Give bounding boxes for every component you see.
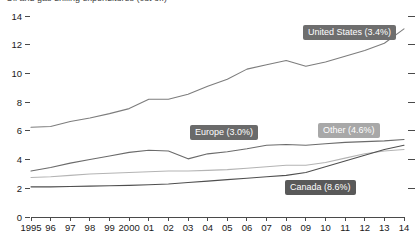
x-tick-label: 11 <box>340 222 350 233</box>
series-label-other: Other (4.6%) <box>318 123 380 138</box>
y-tick-label: 8 <box>17 97 22 108</box>
y-tick-label: 0 <box>17 212 22 223</box>
x-tick-label: 03 <box>183 222 194 233</box>
series-label-europe: Europe (3.0%) <box>190 125 258 140</box>
x-tick-label: 99 <box>104 222 115 233</box>
x-tick-label: 07 <box>261 222 272 233</box>
x-axis-ticks: 1995969798992000010203040506070809101112… <box>20 217 409 233</box>
y-axis-ticks: 02468101214 <box>11 11 30 223</box>
y-tick-label: 14 <box>11 11 22 22</box>
x-tick-label: 1995 <box>20 222 41 233</box>
x-tick-label: 98 <box>85 222 96 233</box>
x-tick-label: 13 <box>379 222 390 233</box>
right-axis-ticks <box>408 16 415 188</box>
series-line-other <box>31 150 404 178</box>
x-tick-label: 97 <box>65 222 76 233</box>
y-tick-label: 10 <box>11 68 22 79</box>
x-tick-label: 14 <box>399 222 410 233</box>
series-line-united-states <box>31 29 404 127</box>
x-tick-label: 09 <box>301 222 312 233</box>
x-tick-label: 06 <box>242 222 253 233</box>
x-tick-label: 08 <box>281 222 292 233</box>
y-tick-label: 12 <box>11 39 22 50</box>
x-tick-label: 05 <box>222 222 233 233</box>
y-tick-label: 4 <box>17 154 22 165</box>
series-label-united-states: United States (3.4%) <box>303 25 396 40</box>
x-tick-label: 10 <box>320 222 331 233</box>
x-tick-label: 96 <box>45 222 56 233</box>
x-tick-label: 02 <box>163 222 174 233</box>
x-tick-label: 2000 <box>119 222 140 233</box>
line-chart: Oil and gas drilling expenditures (cut o… <box>0 0 416 240</box>
series-line-europe <box>31 139 404 171</box>
x-tick-label: 01 <box>144 222 155 233</box>
x-tick-label: 12 <box>359 222 370 233</box>
series-group <box>31 29 404 187</box>
series-label-canada: Canada (8.6%) <box>285 180 356 195</box>
y-tick-label: 6 <box>17 125 22 136</box>
y-tick-label: 2 <box>17 183 22 194</box>
x-tick-label: 04 <box>202 222 213 233</box>
